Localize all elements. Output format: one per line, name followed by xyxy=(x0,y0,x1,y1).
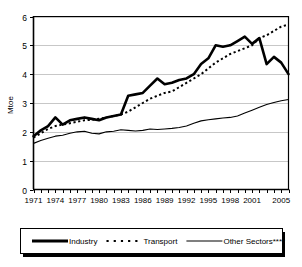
y-tick-label: 6 xyxy=(22,13,27,23)
x-tick-label: 1977 xyxy=(68,196,86,205)
y-tick-label: 5 xyxy=(22,41,27,51)
x-tick-label: 1971 xyxy=(25,196,43,205)
x-tick-label: 1986 xyxy=(134,196,152,205)
line-chart: 0123456 19711974197719801983198619891992… xyxy=(0,0,302,267)
legend-label-transport: Transport xyxy=(143,237,178,246)
x-tick-label: 1992 xyxy=(178,196,196,205)
y-tick-label: 2 xyxy=(22,128,27,138)
legend-label-industry: Industry xyxy=(69,237,97,246)
x-tick-label: 1989 xyxy=(156,196,174,205)
x-tick-label: 1980 xyxy=(90,196,108,205)
legend-label-other-sectors: Other Sectors**** xyxy=(223,237,285,246)
legend: Industry Transport Other Sectors**** xyxy=(21,229,286,258)
x-tick-label: 1995 xyxy=(199,196,217,205)
x-tick-label: 2001 xyxy=(243,196,261,205)
x-tick-label: 1983 xyxy=(112,196,130,205)
y-axis-title: Mtoe xyxy=(6,96,15,114)
chart-figure: 0123456 19711974197719801983198619891992… xyxy=(0,0,302,267)
y-tick-label: 4 xyxy=(22,70,27,80)
y-tick-label: 3 xyxy=(22,99,27,109)
y-tick-label: 1 xyxy=(22,157,27,167)
y-tick-label: 0 xyxy=(22,186,27,196)
x-tick-label: 1974 xyxy=(46,196,64,205)
x-tick-label: 1998 xyxy=(221,196,239,205)
x-tick-label: 2005 xyxy=(272,196,290,205)
